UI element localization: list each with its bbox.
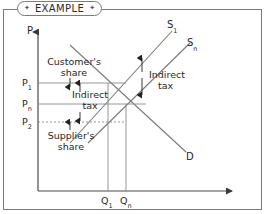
x-tick-qn: Qn [120,196,132,208]
curve-label-s1: S1 [167,20,178,33]
x-tick-qn-sub: n [127,202,131,210]
annotation-indirect-tax-outer-line2: tax [149,81,185,92]
annotation-indirect-tax-outer-line1: Indirect [149,70,185,81]
annotation-customers-share-line2: share [38,68,110,79]
x-tick-q1: Q1 [101,196,113,208]
y-tick-p1-base: P [22,77,28,88]
y-tick-p2-sub: 2 [28,123,32,131]
curve-label-s1-sub: 1 [173,27,177,35]
annotation-indirect-tax-inner-line2: tax [60,101,120,112]
y-tick-p2: P2 [22,117,32,129]
y-axis-label: P [27,26,33,36]
y-tick-p2-base: P [22,116,28,127]
screenshot-root: ✦ EXAMPLE ✦ [0,0,266,214]
tab-right-diamond-icon: ✦ [89,5,95,12]
annotation-suppliers-share: Supplier's share [36,131,106,152]
supply-demand-tax-diagram [0,0,266,214]
annotation-customers-share: Customer's share [38,57,110,78]
curve-label-sn-sub: n [193,45,197,53]
curve-label-sn: Sn [187,38,197,51]
tab-title: EXAMPLE [35,4,84,14]
example-tab[interactable]: ✦ EXAMPLE ✦ [17,1,102,16]
curve-label-d: D [186,152,194,162]
y-tick-p1-sub: 1 [28,84,32,92]
annotation-indirect-tax-inner-line1: Indirect [60,90,120,101]
annotation-customers-share-line1: Customer's [38,57,110,68]
annotation-indirect-tax-inner: Indirect tax [60,90,120,111]
y-tick-pn-base: P [22,98,28,109]
annotation-suppliers-share-line1: Supplier's [36,131,106,142]
annotation-suppliers-share-line2: share [36,142,106,153]
y-tick-pn-sub: n [28,105,32,113]
tab-left-diamond-icon: ✦ [24,5,30,12]
annotation-indirect-tax-outer: Indirect tax [149,70,185,91]
x-tick-q1-sub: 1 [108,202,112,210]
y-tick-pn: Pn [22,99,32,111]
y-tick-p1: P1 [22,78,32,90]
